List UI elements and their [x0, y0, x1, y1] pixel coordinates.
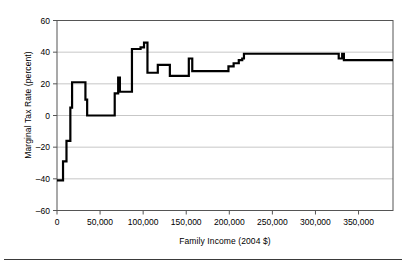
- marginal-tax-rate-line-chart: –60–40–200204060 050,000100,000150,00020…: [0, 0, 406, 267]
- bottom-divider-rule: [4, 259, 402, 260]
- y-tick-label: 0: [45, 111, 50, 121]
- y-tick-label: 40: [41, 47, 51, 57]
- y-tick-label: –20: [36, 142, 50, 152]
- y-tick-label: –60: [36, 206, 50, 216]
- x-tick-label: 100,000: [128, 217, 159, 227]
- x-tick-label: 200,000: [214, 217, 245, 227]
- marginal-tax-rate-step-line: [57, 43, 393, 181]
- x-tick-label: 250,000: [257, 217, 288, 227]
- x-tick-label: 300,000: [300, 217, 331, 227]
- figure-container: –60–40–200204060 050,000100,000150,00020…: [0, 0, 406, 267]
- y-axis-ticks: –60–40–200204060: [36, 16, 57, 216]
- y-tick-label: –40: [36, 174, 50, 184]
- x-axis-title: Family Income (2004 $): [57, 236, 393, 246]
- y-axis-title: Marginal Tax Rate (percent): [23, 25, 33, 185]
- y-tick-label: 60: [41, 16, 51, 26]
- x-axis-ticks: 050,000100,000150,000200,000250,000300,0…: [55, 211, 375, 227]
- x-tick-label: 50,000: [87, 217, 113, 227]
- y-tick-label: 20: [41, 79, 51, 89]
- x-tick-label: 350,000: [343, 217, 374, 227]
- data-series-group: [57, 43, 393, 181]
- x-tick-label: 0: [55, 217, 60, 227]
- x-tick-label: 150,000: [171, 217, 202, 227]
